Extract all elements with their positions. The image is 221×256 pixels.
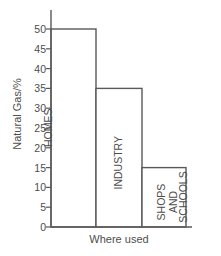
- bar-homes: [51, 29, 96, 227]
- x-axis-title: Where used: [51, 233, 187, 245]
- bar-label-schools: SCHOOLS: [177, 159, 189, 235]
- bar-label-homes: HOMES: [43, 93, 55, 163]
- bar-chart: Natural Gas/% 50 45 40 35 30 25 20 15 10…: [0, 0, 221, 256]
- bar-label-industry: INDUSTRY: [113, 118, 125, 208]
- bar-label-shops: SHOPS: [155, 164, 167, 240]
